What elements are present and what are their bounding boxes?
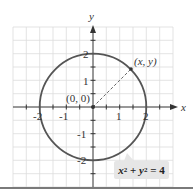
equation-rhs: = 4 (147, 164, 164, 176)
equation-label: x2 + y2 = 4 (114, 161, 169, 179)
bottom-rule (0, 187, 193, 189)
x-tick-neg2: -2 (33, 110, 42, 122)
y-axis-arrow-icon (90, 25, 96, 33)
x-tick-1: 1 (116, 110, 122, 122)
equation-pointer (124, 153, 134, 161)
x-tick-2: 2 (143, 110, 149, 122)
y-tick-2: 2 (83, 48, 89, 60)
y-tick-neg1: -1 (77, 128, 86, 140)
y-axis-label: y (88, 10, 94, 22)
x-axis-label: x (180, 101, 186, 113)
radius-line (93, 69, 131, 107)
origin-point (91, 105, 95, 109)
y-tick-neg2: -2 (77, 154, 86, 166)
x-axis-arrow-icon (170, 104, 178, 110)
y-tick-1: 1 (83, 75, 89, 87)
origin-label: (0, 0) (66, 92, 90, 105)
equation-plus: + (127, 164, 139, 176)
x-tick-neg1: -1 (59, 110, 68, 122)
point-label: (x, y) (134, 55, 157, 68)
circle-point (129, 67, 133, 71)
